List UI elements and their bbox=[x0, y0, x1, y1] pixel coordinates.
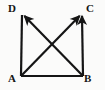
vector-BD bbox=[25, 16, 83, 75]
vector-BC bbox=[82, 16, 83, 76]
vertex-label-c: C bbox=[86, 3, 94, 14]
geometry-figure: A B C D bbox=[0, 0, 105, 90]
vector-AD bbox=[21, 15, 22, 76]
vector-AC bbox=[22, 16, 80, 75]
vertex-label-d: D bbox=[8, 3, 16, 14]
vertex-label-b: B bbox=[84, 73, 91, 84]
vertex-label-a: A bbox=[8, 73, 16, 84]
